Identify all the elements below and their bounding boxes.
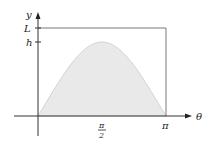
y-axis-arrow-icon — [36, 12, 41, 19]
tick-label-pi-over-2-denominator: 2 — [98, 131, 104, 140]
tick-label-h: h — [26, 37, 32, 48]
tick-label-L: L — [23, 23, 31, 34]
tick-label-pi: π — [161, 120, 169, 131]
shaded-area — [38, 42, 166, 116]
sine-arch-diagram: y L h θ π 2 π — [0, 0, 212, 145]
tick-label-pi-over-2-numerator: π — [98, 121, 105, 130]
y-axis-label: y — [25, 9, 32, 20]
x-axis-label: θ — [196, 111, 202, 122]
x-axis-arrow-icon — [185, 114, 192, 119]
